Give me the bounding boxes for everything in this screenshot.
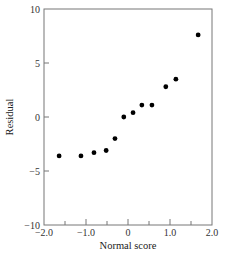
plot-frame bbox=[44, 9, 212, 225]
scatter-chart: 1050−5−10 −2.0−1.001.02.0 Normal score R… bbox=[0, 0, 225, 254]
x-axis-label: Normal score bbox=[100, 240, 157, 251]
y-tick-label: 10 bbox=[30, 4, 40, 15]
data-point bbox=[196, 33, 201, 38]
x-axis: −2.0−1.001.02.0 bbox=[35, 219, 218, 238]
data-point bbox=[113, 136, 118, 141]
x-tick-label: 1.0 bbox=[164, 227, 177, 238]
x-tick-label: −2.0 bbox=[35, 227, 53, 238]
y-tick-label: 0 bbox=[35, 112, 40, 123]
y-axis-label: Residual bbox=[4, 99, 15, 136]
data-points bbox=[57, 33, 201, 159]
data-point bbox=[131, 110, 136, 115]
data-point bbox=[92, 150, 97, 155]
data-point bbox=[57, 153, 62, 158]
y-axis: 1050−5−10 bbox=[24, 4, 49, 231]
data-point bbox=[121, 115, 126, 120]
x-tick-label: 0 bbox=[126, 227, 131, 238]
x-tick-label: 2.0 bbox=[206, 227, 219, 238]
x-tick-label: −1.0 bbox=[77, 227, 95, 238]
data-point bbox=[79, 153, 84, 158]
data-point bbox=[163, 84, 168, 89]
data-point bbox=[173, 77, 178, 82]
y-tick-label: −5 bbox=[29, 166, 40, 177]
data-point bbox=[150, 103, 155, 108]
y-tick-label: 5 bbox=[35, 58, 40, 69]
data-point bbox=[104, 148, 109, 153]
data-point bbox=[139, 103, 144, 108]
